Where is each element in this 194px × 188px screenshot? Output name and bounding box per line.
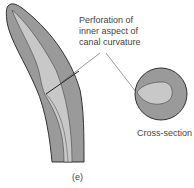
callout-line: inner aspect of bbox=[79, 26, 141, 37]
leader-line-2 bbox=[106, 53, 136, 92]
callout-line: Perforation of bbox=[79, 15, 141, 26]
callout-line: canal curvature bbox=[79, 37, 141, 48]
cross-section-label: Cross-section bbox=[137, 128, 192, 139]
callout-label: Perforation of inner aspect of canal cur… bbox=[79, 15, 141, 48]
panel-label: (e) bbox=[72, 172, 83, 183]
